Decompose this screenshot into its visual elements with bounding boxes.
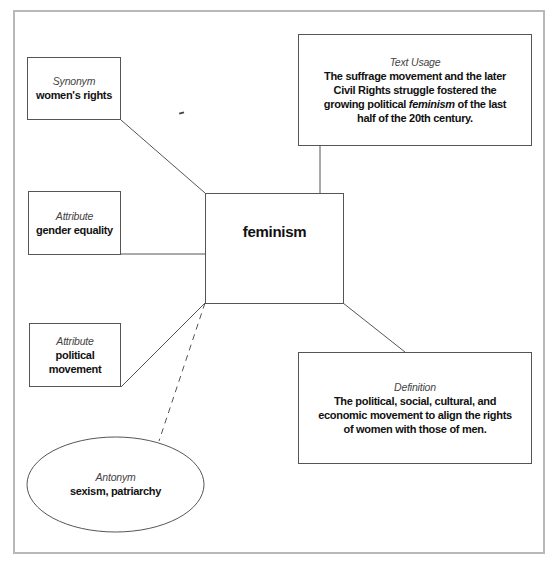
synonym-value: women's rights: [36, 88, 112, 102]
attribute-1-label: Attribute: [56, 210, 93, 223]
synonym-box: Synonym women's rights: [27, 57, 121, 120]
attribute-2-label: Attribute: [56, 335, 93, 348]
text-usage-label: Text Usage: [390, 56, 441, 69]
synonym-label: Synonym: [53, 75, 95, 88]
connector-attribute-2: [121, 303, 205, 387]
definition-value: The political, social, cultural, and eco…: [315, 394, 515, 436]
attribute-1-value: gender equality: [36, 223, 113, 237]
text-usage-value: The suffrage movement and the later Civi…: [315, 69, 515, 125]
definition-box: Definition The political, social, cultur…: [298, 352, 532, 464]
text-usage-box: Text Usage The suffrage movement and the…: [298, 34, 532, 146]
connector-antonym: [159, 303, 205, 441]
center-word: feminism: [243, 223, 306, 240]
antonym-label: Antonym: [95, 471, 135, 484]
center-concept-box: feminism: [205, 193, 344, 304]
text-usage-emphasis: feminism: [409, 98, 455, 110]
connector-definition: [343, 303, 405, 352]
antonym-ellipse: Antonym sexism, patriarchy: [27, 437, 204, 532]
attribute-box-1: Attribute gender equality: [28, 191, 121, 255]
attribute-2-value: political movement: [45, 348, 105, 376]
antonym-value: sexism, patriarchy: [70, 484, 161, 498]
connector-synonym: [121, 120, 205, 193]
definition-label: Definition: [394, 381, 436, 394]
attribute-box-2: Attribute political movement: [29, 323, 121, 387]
